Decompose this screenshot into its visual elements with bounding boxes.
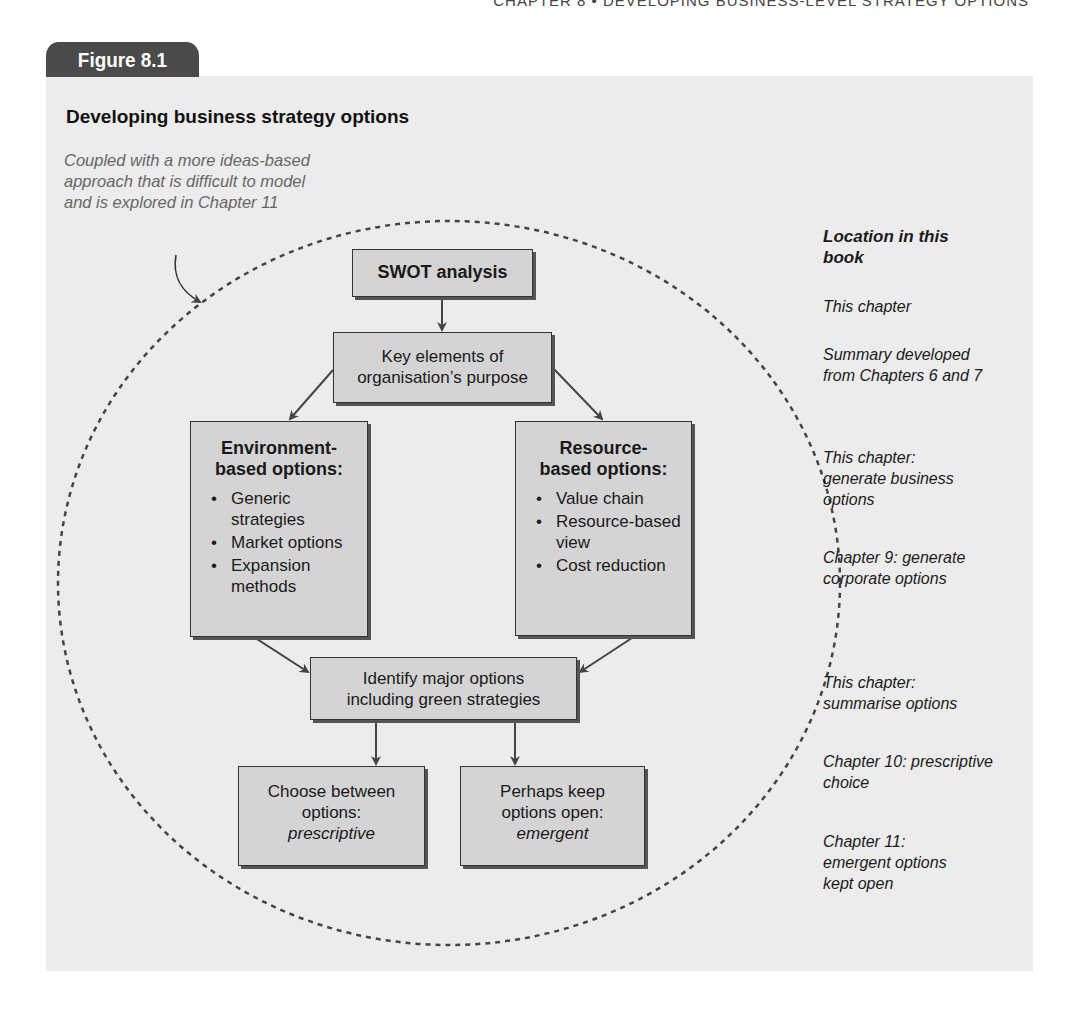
- environment-heading: Environment-based options:: [199, 438, 359, 480]
- resource-item: Cost reduction: [534, 555, 683, 576]
- keep-options-open-box: Perhaps keep options open: emergent: [460, 766, 645, 866]
- location-entry: This chapter: generate business options: [823, 447, 963, 510]
- location-entry: Chapter 9: generate corporate options: [823, 547, 993, 589]
- environment-list: Generic strategies Market options Expans…: [199, 488, 359, 597]
- location-heading: Location in this book: [823, 226, 973, 268]
- swot-analysis-box: SWOT analysis: [352, 249, 533, 297]
- resource-item: Value chain: [534, 488, 683, 509]
- choose-label: Choose between options:: [253, 781, 410, 823]
- dashed-boundary-circle: [58, 221, 840, 945]
- choose-options-box: Choose between options: prescriptive: [238, 766, 425, 866]
- arrow-env-to-identify: [254, 637, 308, 672]
- perhaps-label: Perhaps keep options open:: [475, 781, 630, 823]
- swot-label: SWOT analysis: [377, 262, 507, 282]
- arrow-key-to-env: [290, 370, 333, 419]
- location-entry: This chapter: [823, 296, 1023, 317]
- environment-item: Market options: [209, 532, 359, 553]
- environment-options-box: Environment-based options: Generic strat…: [190, 421, 368, 637]
- location-entry: Chapter 11: emergent options kept open: [823, 831, 963, 894]
- environment-item: Expansion methods: [209, 555, 359, 597]
- resource-list: Value chain Resource-based view Cost red…: [524, 488, 683, 576]
- arrow-key-to-resource: [552, 367, 602, 419]
- location-entry: Chapter 10: prescriptive choice: [823, 751, 993, 793]
- environment-item: Generic strategies: [209, 488, 359, 530]
- identify-label: Identify major options including green s…: [347, 669, 541, 709]
- resource-options-box: Resource-based options: Value chain Reso…: [515, 421, 692, 636]
- key-elements-label: Key elements of organisation’s purpose: [357, 347, 528, 387]
- choose-emphasis: prescriptive: [253, 823, 410, 844]
- location-entry: Summary developed from Chapters 6 and 7: [823, 344, 988, 386]
- resource-heading: Resource-based options:: [524, 438, 683, 480]
- key-elements-box: Key elements of organisation’s purpose: [333, 332, 552, 403]
- perhaps-emphasis: emergent: [475, 823, 630, 844]
- arrow-resource-to-identify: [580, 636, 635, 672]
- location-entry: This chapter: summarise options: [823, 672, 998, 714]
- curved-pointer-arrow: [175, 255, 200, 302]
- identify-options-box: Identify major options including green s…: [310, 657, 577, 720]
- resource-item: Resource-based view: [534, 511, 683, 553]
